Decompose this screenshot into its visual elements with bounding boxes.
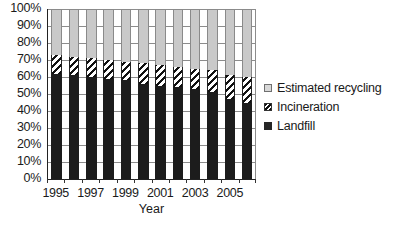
legend-label: Landfill [277, 119, 315, 133]
legend-swatch-landfill-icon [264, 122, 272, 130]
legend-item[interactable]: Incineration [264, 98, 416, 116]
bar-segment-incineration [155, 65, 165, 85]
x-tick-mark [47, 179, 48, 183]
x-tick-mark [169, 179, 170, 183]
bar-slot [100, 9, 117, 179]
bar-segment-estimated-recycling [69, 9, 79, 57]
bar[interactable] [242, 9, 252, 179]
bar[interactable] [103, 9, 113, 179]
bar[interactable] [51, 9, 61, 179]
bar-segment-landfill [121, 80, 131, 179]
bar[interactable] [190, 9, 200, 179]
bar-segment-estimated-recycling [190, 9, 200, 69]
x-tick-slot [221, 179, 238, 184]
bar[interactable] [69, 9, 79, 179]
y-tick-label: 60% [17, 70, 41, 82]
x-tick-mark [64, 179, 65, 183]
y-tick-label: 50% [17, 87, 41, 99]
y-tick-label: 70% [17, 53, 41, 65]
bars-layer [48, 9, 256, 179]
bar-segment-incineration [51, 55, 61, 74]
bar-segment-incineration [86, 58, 96, 77]
bar-slot [135, 9, 152, 179]
x-axis-title: Year [47, 202, 256, 216]
bar[interactable] [225, 9, 235, 179]
bar-segment-estimated-recycling [173, 9, 183, 67]
legend-swatch-recycling-icon [264, 84, 272, 92]
x-tick-label: 2001 [147, 186, 174, 200]
x-tick-mark-end [255, 179, 256, 183]
bar-segment-estimated-recycling [242, 9, 252, 77]
y-tick-label: 30% [17, 121, 41, 133]
bar-segment-landfill [242, 103, 252, 180]
x-tick-slot [99, 179, 116, 184]
bar-slot [204, 9, 221, 179]
x-tick-label: 1997 [77, 186, 104, 200]
bar-segment-incineration [69, 57, 79, 76]
bar[interactable] [173, 9, 183, 179]
bar-segment-landfill [69, 75, 79, 179]
bar-segment-estimated-recycling [138, 9, 148, 63]
bar-slot [152, 9, 169, 179]
bar-slot [221, 9, 238, 179]
x-tick-slot [186, 179, 203, 184]
y-tick-label: 10% [17, 155, 41, 167]
legend-item[interactable]: Estimated recycling [264, 79, 416, 97]
bar-segment-estimated-recycling [225, 9, 235, 75]
y-tick-label: 100% [10, 2, 41, 14]
bar-segment-incineration [190, 69, 200, 89]
bar-segment-landfill [138, 84, 148, 179]
bar[interactable] [207, 9, 217, 179]
bar-segment-landfill [155, 86, 165, 180]
x-tick-mark [239, 179, 240, 183]
bar-segment-incineration [225, 75, 235, 99]
bar-segment-landfill [173, 87, 183, 179]
bar-slot [239, 9, 256, 179]
legend-item[interactable]: Landfill [264, 117, 416, 135]
plot-area [47, 9, 256, 180]
y-tick-label: 0% [24, 172, 41, 184]
bar-segment-landfill [51, 74, 61, 179]
bar-slot [169, 9, 186, 179]
x-tick-slot [64, 179, 81, 184]
x-tick-mark [117, 179, 118, 183]
bar-segment-landfill [190, 89, 200, 179]
bar[interactable] [121, 9, 131, 179]
x-tick-label: 1995 [42, 186, 69, 200]
bar-segment-estimated-recycling [86, 9, 96, 58]
bar[interactable] [155, 9, 165, 179]
x-tick-mark [99, 179, 100, 183]
stacked-bar-chart: 100%90%80%70%60%50%40%30%20%10%0% 199519… [0, 0, 420, 226]
x-tick-slot [204, 179, 221, 184]
bar-slot [65, 9, 82, 179]
y-tick-label: 80% [17, 36, 41, 48]
x-tick-slot [117, 179, 134, 184]
x-tick-slot [47, 179, 64, 184]
bar[interactable] [138, 9, 148, 179]
x-tick-mark [204, 179, 205, 183]
x-tick-slot [82, 179, 99, 184]
x-tick-mark [152, 179, 153, 183]
x-tick-slot [152, 179, 169, 184]
x-axis-ticks [47, 179, 256, 184]
bar-segment-landfill [207, 92, 217, 179]
x-tick-slot [239, 179, 256, 184]
bar-segment-landfill [86, 77, 96, 179]
y-axis: 100%90%80%70%60%50%40%30%20%10%0% [0, 0, 44, 190]
legend-label: Estimated recycling [277, 81, 382, 95]
bar-slot [83, 9, 100, 179]
bar-segment-incineration [207, 70, 217, 92]
bar-segment-landfill [225, 99, 235, 179]
x-tick-mark [134, 179, 135, 183]
bar[interactable] [86, 9, 96, 179]
y-tick-label: 40% [17, 104, 41, 116]
bar-segment-estimated-recycling [207, 9, 217, 70]
bar-segment-incineration [138, 63, 148, 83]
x-tick-mark [82, 179, 83, 183]
x-tick-slot [134, 179, 151, 184]
bar-segment-incineration [103, 60, 113, 79]
y-tick-label: 20% [17, 138, 41, 150]
bar-segment-estimated-recycling [121, 9, 131, 62]
bar-segment-estimated-recycling [155, 9, 165, 65]
x-tick-mark [186, 179, 187, 183]
